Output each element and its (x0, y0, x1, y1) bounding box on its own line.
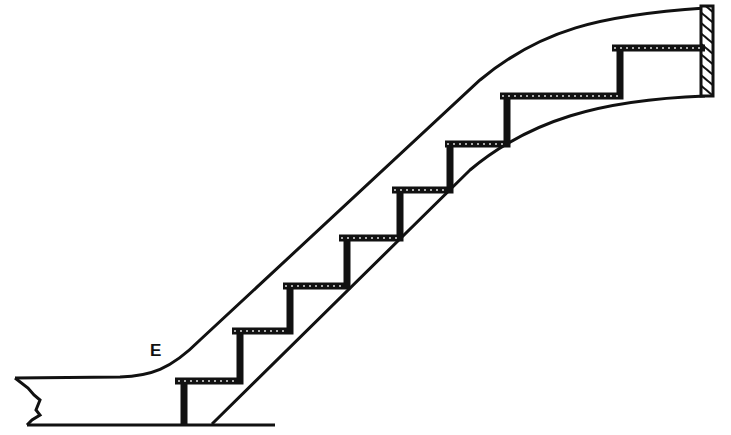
escalator-diagram (0, 0, 731, 435)
label-e: E (150, 341, 161, 361)
truss-upper-outline (15, 8, 705, 378)
broken-end-line (15, 378, 40, 425)
